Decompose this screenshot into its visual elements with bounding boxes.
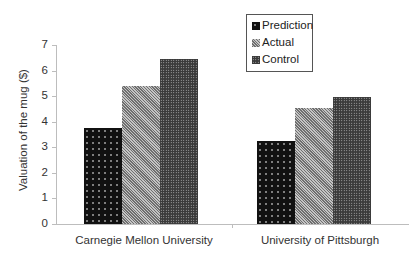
- legend-item-actual: Actual: [252, 36, 294, 48]
- y-tick: [52, 122, 56, 123]
- y-tick: [52, 71, 56, 72]
- y-tick-label: 3: [34, 140, 48, 152]
- y-tick: [52, 45, 56, 46]
- y-tick: [52, 96, 56, 97]
- y-tick: [52, 173, 56, 174]
- legend-item-control: Control: [252, 53, 299, 65]
- x-category-pitt: University of Pittsburgh: [232, 234, 408, 246]
- y-tick-label: 7: [34, 38, 48, 50]
- actual-swatch-icon: [252, 39, 260, 47]
- bar-control-pitt: [333, 97, 371, 224]
- bar-actual-cmu: [122, 86, 160, 224]
- bar-prediction-cmu: [84, 128, 122, 224]
- prediction-swatch-icon: [252, 22, 260, 30]
- y-tick-label: 4: [34, 115, 48, 127]
- x-tick-divider: [232, 224, 233, 228]
- y-tick: [52, 224, 56, 225]
- x-category-cmu: Carnegie Mellon University: [56, 234, 232, 246]
- y-tick: [52, 147, 56, 148]
- y-tick: [52, 198, 56, 199]
- y-tick-label: 2: [34, 166, 48, 178]
- y-axis-line: [56, 45, 57, 224]
- control-swatch-icon: [252, 56, 260, 64]
- y-tick-label: 0: [34, 217, 48, 229]
- y-tick-label: 5: [34, 89, 48, 101]
- bar-actual-pitt: [295, 108, 333, 224]
- bar-prediction-pitt: [257, 141, 295, 224]
- y-tick-label: 1: [34, 191, 48, 203]
- bar-control-cmu: [160, 59, 198, 224]
- legend: Prediction Actual Control: [246, 14, 313, 72]
- legend-item-prediction: Prediction: [252, 19, 313, 31]
- y-tick-label: 6: [34, 64, 48, 76]
- y-axis-label: Valuation of the mug ($): [17, 55, 29, 205]
